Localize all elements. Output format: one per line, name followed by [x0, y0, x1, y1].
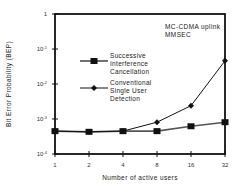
x-tick-label: 2 [87, 162, 91, 168]
x-tick-label: 16 [188, 162, 195, 168]
chart-annotation: MC-CDMA uplink MMSEC [165, 23, 220, 39]
x-tick-label: 8 [155, 162, 159, 168]
x-tick-label: 32 [222, 162, 229, 168]
legend-markers [80, 58, 108, 91]
y-tick-label: 1 [44, 11, 48, 17]
x-axis-title: Number of active users [55, 174, 225, 181]
y-tick-label: 10-3 [37, 115, 48, 123]
legend-label-conventional: Conventional Single User Detection [110, 79, 152, 103]
y-tick-label: 10-2 [37, 80, 48, 88]
y-tick-label: 10-4 [37, 150, 48, 158]
legend-label-sic: Successive Interference Cancellation [110, 52, 149, 76]
annotation-line-1: MC-CDMA uplink [165, 23, 220, 31]
x-tick-label: 4 [121, 162, 125, 168]
x-tick-label: 1 [53, 162, 57, 168]
y-tick-label: 10-1 [37, 45, 48, 53]
y-axis-label: Bit Error Probability (BEP) [5, 41, 12, 127]
annotation-line-2: MMSEC [165, 31, 220, 39]
